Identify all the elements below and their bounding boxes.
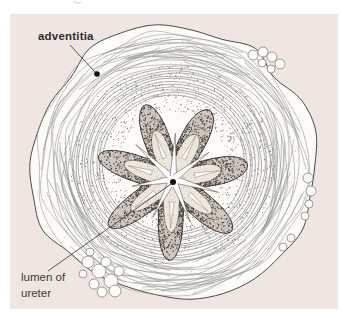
adventitia-label: adventitia: [38, 30, 94, 42]
cropped-caption-mark: [74, 1, 81, 3]
lumen-of-ureter-label: lumen of ureter: [21, 269, 65, 301]
histology-drawing: [30, 25, 317, 299]
lumen-marker-dot: [170, 179, 176, 185]
figure-page: adventitia lumen of ureter: [0, 0, 341, 320]
lumen-label-line1: lumen of: [21, 271, 65, 283]
lumen-label-line2: ureter: [21, 287, 51, 299]
adventitia-marker-dot: [94, 71, 100, 77]
